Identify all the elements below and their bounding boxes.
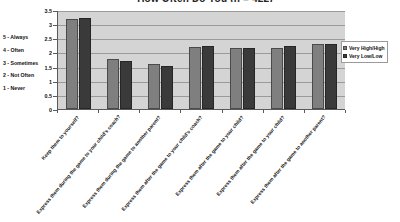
bar bbox=[230, 48, 242, 109]
legend-swatch-icon bbox=[343, 54, 347, 58]
bar bbox=[66, 19, 78, 109]
y-axis-tick-label: 3.5 bbox=[45, 8, 53, 14]
legend-swatch-icon bbox=[343, 46, 347, 50]
bar bbox=[312, 44, 324, 109]
bar bbox=[107, 59, 119, 109]
bar bbox=[243, 48, 255, 109]
x-axis-label: Express them during the game to your chi… bbox=[35, 114, 121, 215]
series-legend: Very High/High Very Low/Low bbox=[341, 41, 388, 63]
bar bbox=[79, 18, 91, 109]
bar-group bbox=[140, 11, 181, 109]
bar-group bbox=[304, 11, 345, 109]
y-axis-tick-label: 2.5 bbox=[45, 36, 53, 42]
x-axis-label: Express them after the game to your chil… bbox=[174, 114, 245, 197]
legend-item: Very Low/Low bbox=[343, 52, 385, 60]
y-axis-tick-label: 2 bbox=[49, 50, 52, 56]
chart-title: How Often Do You (n = 422) bbox=[60, 0, 350, 2]
bar bbox=[189, 47, 201, 109]
legend-label: Very Low/Low bbox=[349, 53, 382, 59]
bar bbox=[284, 46, 296, 109]
y-axis-tick-label: 1 bbox=[49, 79, 52, 85]
y-axis-tick bbox=[53, 53, 57, 54]
bar bbox=[202, 46, 214, 109]
scale-legend-item: 2 - Not Often bbox=[3, 69, 55, 82]
y-axis-tick-label: 1.5 bbox=[45, 65, 53, 71]
x-axis-label: Express them during the game to another … bbox=[81, 114, 162, 209]
bar-groups bbox=[58, 11, 345, 109]
y-axis-tick bbox=[53, 68, 57, 69]
bar-group bbox=[181, 11, 222, 109]
bar bbox=[148, 64, 160, 109]
x-axis-labels: Keep them to yourself?Express them durin… bbox=[0, 110, 400, 222]
bar-group bbox=[263, 11, 304, 109]
plot-area bbox=[57, 11, 345, 110]
y-axis-tick bbox=[53, 39, 57, 40]
x-axis-label: Express them after the game to your chil… bbox=[120, 114, 203, 212]
scale-legend-item: 4 - Often bbox=[3, 44, 55, 57]
bar-group bbox=[58, 11, 99, 109]
x-axis-label: Express them after the game to another p… bbox=[249, 114, 327, 205]
bar-group bbox=[222, 11, 263, 109]
y-axis-tick-label: 3 bbox=[49, 22, 52, 28]
bar bbox=[120, 61, 132, 109]
y-axis-tick bbox=[53, 96, 57, 97]
bar bbox=[161, 66, 173, 109]
x-axis-label: Keep them to yourself? bbox=[40, 114, 80, 160]
bar-chart: How Often Do You (n = 422) 5 - Always 4 … bbox=[0, 0, 400, 222]
legend-item: Very High/High bbox=[343, 44, 385, 52]
bar bbox=[271, 48, 283, 109]
y-axis-tick bbox=[53, 11, 57, 12]
y-axis-tick bbox=[53, 25, 57, 26]
y-axis-tick-label: 0.5 bbox=[45, 93, 53, 99]
legend-label: Very High/High bbox=[349, 45, 385, 51]
bar bbox=[325, 44, 337, 109]
bar-group bbox=[99, 11, 140, 109]
y-axis-tick bbox=[53, 82, 57, 83]
x-axis-label: Express them after the game to your chil… bbox=[215, 114, 286, 197]
